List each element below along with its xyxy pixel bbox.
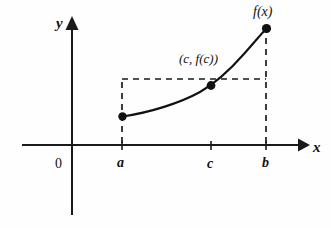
function-graph-svg bbox=[0, 0, 331, 228]
tick-label-c: c bbox=[207, 157, 213, 171]
y-axis-label: y bbox=[56, 16, 63, 31]
figure-container: y x 0 a c b f(x) (c, f(c)) bbox=[0, 0, 331, 228]
point-at-c bbox=[207, 81, 216, 90]
x-axis-arrowhead bbox=[298, 139, 310, 152]
point-at-a bbox=[118, 112, 126, 120]
y-axis-arrowhead bbox=[66, 16, 79, 30]
function-label: f(x) bbox=[253, 5, 272, 19]
tick-label-a: a bbox=[117, 156, 124, 170]
tick-label-b: b bbox=[262, 156, 269, 170]
function-curve bbox=[123, 29, 267, 117]
point-at-b bbox=[262, 24, 271, 33]
origin-label: 0 bbox=[55, 157, 62, 171]
x-axis-label: x bbox=[313, 140, 321, 155]
point-label: (c, f(c)) bbox=[179, 52, 218, 65]
